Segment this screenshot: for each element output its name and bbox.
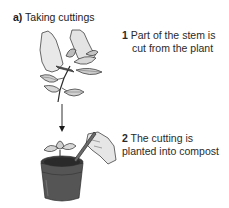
left-hand-icon — [40, 31, 63, 72]
down-arrow-icon — [59, 104, 65, 132]
leaf-icon — [74, 57, 96, 65]
pot-icon — [41, 163, 83, 201]
planting-illustration — [41, 132, 116, 201]
leaf-icon — [40, 75, 58, 83]
leaf-icon — [44, 86, 60, 93]
leaf-icon — [62, 143, 76, 149]
stem-icon — [58, 66, 70, 102]
leaf-icon — [76, 68, 102, 74]
leaf-icon — [66, 49, 76, 57]
leaf-icon — [64, 89, 84, 96]
illustration-canvas — [0, 0, 229, 208]
cutting-illustration — [40, 30, 102, 102]
